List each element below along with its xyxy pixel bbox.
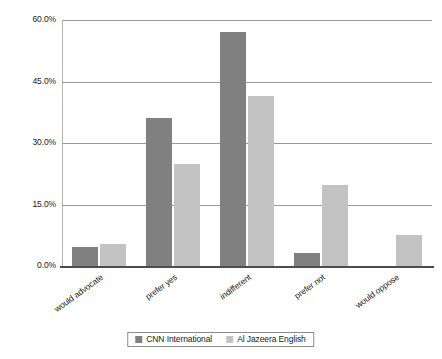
x-axis-tick-labels: would advocateprefer yesindifferentprefe… bbox=[0, 268, 442, 328]
bar bbox=[396, 235, 422, 266]
bar bbox=[322, 185, 348, 266]
y-axis-tick-label: 15.0% bbox=[10, 200, 56, 209]
gridline bbox=[62, 205, 432, 206]
legend-item[interactable]: CNN International bbox=[135, 335, 212, 344]
bar bbox=[100, 244, 126, 266]
legend-label: Al Jazeera English bbox=[237, 335, 306, 344]
y-axis-tick-label: 30.0% bbox=[10, 138, 56, 147]
bar bbox=[220, 32, 246, 266]
gridline bbox=[62, 20, 432, 21]
legend-item[interactable]: Al Jazeera English bbox=[226, 335, 306, 344]
legend-label: CNN International bbox=[146, 335, 212, 344]
bar bbox=[174, 164, 200, 267]
legend-swatch-icon bbox=[135, 336, 142, 343]
y-axis-tick-label: 60.0% bbox=[10, 15, 56, 24]
bar bbox=[146, 118, 172, 266]
bar-chart: 0.0%15.0%30.0%45.0%60.0% would advocatep… bbox=[0, 0, 442, 359]
bar bbox=[294, 253, 320, 266]
chart-legend: CNN InternationalAl Jazeera English bbox=[127, 332, 314, 347]
bar bbox=[72, 247, 98, 266]
bar bbox=[248, 96, 274, 266]
y-axis-tick-label: 45.0% bbox=[10, 77, 56, 86]
legend-swatch-icon bbox=[226, 336, 233, 343]
plot-area bbox=[62, 20, 432, 266]
gridline bbox=[62, 82, 432, 83]
gridline bbox=[62, 143, 432, 144]
y-axis-line bbox=[62, 20, 63, 267]
